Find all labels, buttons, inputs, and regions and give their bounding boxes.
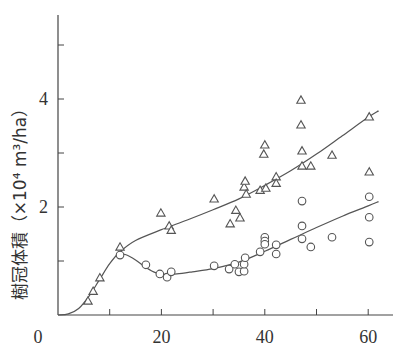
- circle-marker: [298, 197, 306, 205]
- circle-marker: [210, 262, 218, 270]
- circle-marker: [156, 270, 164, 278]
- circle-marker: [231, 260, 239, 268]
- x-tick-label: 60: [359, 327, 377, 347]
- y-tick-label: 2: [39, 197, 48, 217]
- circle-marker: [241, 254, 249, 262]
- y-axis-label: 樹冠体積（×10⁴ m³/ha）: [10, 100, 30, 300]
- triangle-marker: [297, 121, 305, 128]
- y-ticks: 24: [39, 45, 64, 261]
- x-tick-label: 20: [152, 327, 170, 347]
- y-tick-label: 4: [39, 89, 48, 109]
- triangle-marker: [262, 184, 270, 191]
- triangle-marker: [365, 168, 373, 175]
- circle-marker: [256, 248, 264, 256]
- circle-marker: [328, 233, 336, 241]
- triangle-marker: [297, 96, 305, 103]
- circle-marker: [272, 250, 280, 258]
- triangle-marker: [210, 195, 218, 202]
- circle-marker: [261, 240, 269, 248]
- circle-marker: [240, 267, 248, 275]
- circle-marker: [307, 243, 315, 251]
- data-points: [84, 96, 374, 304]
- triangle-fit-curve: [58, 111, 379, 315]
- triangle-marker: [365, 113, 373, 120]
- x-tick-label: 40: [256, 327, 274, 347]
- triangle-marker: [226, 220, 234, 227]
- fit-curves: [58, 111, 379, 315]
- circle-marker: [116, 251, 124, 259]
- triangle-marker: [236, 214, 244, 221]
- circle-marker: [142, 261, 150, 269]
- x-tick-label: 0: [34, 327, 43, 347]
- triangle-marker: [260, 150, 268, 157]
- triangle-marker: [241, 177, 249, 184]
- circle-marker: [365, 193, 373, 201]
- triangle-marker: [232, 206, 240, 213]
- circle-marker: [365, 213, 373, 221]
- triangle-marker: [298, 147, 306, 154]
- triangle-marker: [157, 209, 165, 216]
- triangle-marker: [89, 287, 97, 294]
- circle-marker: [167, 268, 175, 276]
- circle-marker: [298, 222, 306, 230]
- triangle-marker: [116, 243, 124, 250]
- chart: 0204060 24 樹冠体積（×10⁴ m³/ha）: [0, 0, 406, 353]
- circle-marker: [298, 235, 306, 243]
- triangle-marker: [261, 141, 269, 148]
- circle-marker: [365, 238, 373, 246]
- triangle-marker: [307, 162, 315, 169]
- triangle-marker: [328, 151, 336, 158]
- circle-marker: [272, 241, 280, 249]
